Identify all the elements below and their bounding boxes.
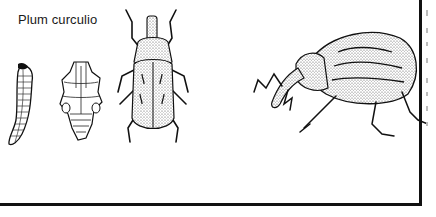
frame-border-bottom <box>0 203 422 206</box>
figure-caption: Plum curculio <box>18 12 97 27</box>
adult-dorsal-illustration <box>110 8 196 144</box>
pupa-illustration <box>56 58 106 148</box>
adult-lateral-illustration <box>252 28 428 144</box>
larva-illustration <box>6 60 46 150</box>
